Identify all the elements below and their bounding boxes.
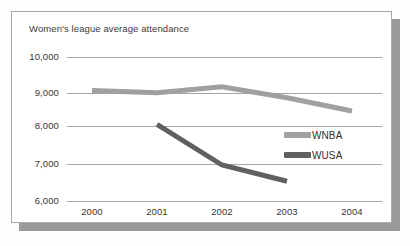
chart-legend: WNBA WUSA: [284, 125, 380, 165]
plot-area: 10,000 9,000 8,000 7,000 6,000 2000 2001…: [12, 12, 393, 224]
legend-item-wusa: WUSA: [284, 145, 380, 165]
legend-item-wnba: WNBA: [284, 125, 380, 145]
series-layer: [12, 12, 393, 224]
chart-card: Women's league average attendance 10,000…: [11, 11, 392, 223]
legend-swatch-wusa: [284, 152, 311, 158]
page-speckle: [14, 232, 54, 240]
legend-swatch-wnba: [284, 132, 311, 138]
legend-label-wnba: WNBA: [312, 130, 342, 141]
chart-screenshot: Women's league average attendance 10,000…: [0, 0, 410, 246]
legend-label-wusa: WUSA: [312, 150, 342, 161]
series-line-wnba: [92, 87, 352, 111]
series-line-wusa: [157, 124, 287, 181]
